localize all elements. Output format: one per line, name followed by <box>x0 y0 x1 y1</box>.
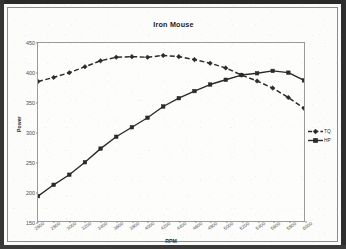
data-point-marker <box>223 66 228 71</box>
x-axis-tick-label: 3000 <box>65 221 76 231</box>
y-axis-tick-mark <box>36 43 38 44</box>
x-axis-tick-label: 5000 <box>223 221 234 231</box>
x-axis-tick-mark <box>306 221 307 223</box>
y-axis-tick-label: 300 <box>26 130 35 136</box>
x-axis-tick-mark <box>290 221 291 223</box>
x-axis-tick-label: 3800 <box>128 221 139 231</box>
data-point-marker <box>38 194 40 198</box>
y-axis-tick-label: 350 <box>26 100 35 106</box>
x-axis-tick-mark <box>258 221 259 223</box>
scanned-chart-page: Iron Mouse Power RPM 4504003503002502001… <box>0 0 346 249</box>
x-axis-tick-label: 2800 <box>50 221 61 231</box>
data-point-marker <box>255 71 259 75</box>
data-point-marker <box>51 75 56 80</box>
x-axis-tick-mark <box>53 221 54 223</box>
legend-label: HP <box>324 138 331 143</box>
y-axis-tick-label: 200 <box>26 190 35 196</box>
data-point-marker <box>145 55 150 60</box>
x-axis-tick-mark <box>38 221 39 223</box>
x-axis-tick-label: 5800 <box>286 221 297 231</box>
data-point-marker <box>52 183 56 187</box>
data-point-marker <box>83 64 88 69</box>
data-point-marker <box>177 54 182 59</box>
data-point-marker <box>255 79 260 84</box>
series-line <box>38 71 304 196</box>
x-axis-tick-label: 4000 <box>144 221 155 231</box>
series-hp <box>38 69 304 198</box>
data-point-marker <box>130 125 134 129</box>
y-axis-tick-mark <box>36 133 38 134</box>
data-point-marker <box>38 79 40 84</box>
y-axis-tick-label: 250 <box>26 160 35 166</box>
y-axis-tick-label: 450 <box>26 40 35 46</box>
series-line <box>38 55 304 108</box>
data-point-marker <box>161 53 166 58</box>
x-axis-tick-mark <box>227 221 228 223</box>
data-point-marker <box>98 59 103 64</box>
data-point-marker <box>271 69 275 73</box>
x-axis-tick-label: 5200 <box>239 221 250 231</box>
data-point-marker <box>302 79 304 83</box>
y-axis-tick-mark <box>36 163 38 164</box>
y-axis-label: Power <box>16 116 22 132</box>
figure-frame: Iron Mouse Power RPM 4504003503002502001… <box>7 7 338 242</box>
x-axis-tick-mark <box>85 221 86 223</box>
x-axis-tick-mark <box>148 221 149 223</box>
scan-border-bottom <box>0 245 346 249</box>
x-axis-tick-mark <box>132 221 133 223</box>
data-point-marker <box>240 73 244 77</box>
data-point-marker <box>270 86 275 91</box>
data-point-marker <box>146 116 150 120</box>
x-axis-tick-label: 4600 <box>191 221 202 231</box>
data-point-marker <box>114 55 119 60</box>
data-point-marker <box>130 54 135 59</box>
x-axis-tick-label: 3400 <box>97 221 108 231</box>
data-point-marker <box>193 89 197 93</box>
x-axis-tick-label: 4400 <box>176 221 187 231</box>
x-axis-tick-label: 5600 <box>270 221 281 231</box>
data-point-marker <box>161 105 165 109</box>
y-axis-tick-mark <box>36 103 38 104</box>
scan-border-right <box>341 0 346 249</box>
x-axis-tick-label: 4800 <box>207 221 218 231</box>
data-point-marker <box>287 71 291 75</box>
x-axis-tick-mark <box>101 221 102 223</box>
x-axis-tick-mark <box>242 221 243 223</box>
y-axis-tick-mark <box>36 73 38 74</box>
x-axis-tick-mark <box>195 221 196 223</box>
x-axis-tick-label: 5400 <box>255 221 266 231</box>
x-axis-tick-mark <box>274 221 275 223</box>
x-axis-tick-mark <box>69 221 70 223</box>
data-point-marker <box>99 147 103 151</box>
x-axis-tick-label: 4200 <box>160 221 171 231</box>
x-axis-tick-mark <box>179 221 180 223</box>
legend-label: TQ <box>324 129 331 134</box>
legend-item-tq[interactable]: TQ <box>308 127 342 136</box>
y-axis-tick-label: 400 <box>26 70 35 76</box>
y-axis-tick-label: 150 <box>26 220 35 226</box>
data-point-marker <box>224 78 228 82</box>
x-axis-tick-label: 6000 <box>302 221 313 231</box>
x-axis-tick-label: 3600 <box>113 221 124 231</box>
x-axis-label: RPM <box>37 238 305 244</box>
chart-legend: TQHP <box>308 127 342 145</box>
legend-item-hp[interactable]: HP <box>308 136 342 145</box>
data-point-marker <box>68 173 72 177</box>
plot-svg <box>38 43 304 221</box>
y-axis-tick-mark <box>36 193 38 194</box>
x-axis-tick-mark <box>211 221 212 223</box>
x-axis-tick-mark <box>116 221 117 223</box>
x-axis-tick-mark <box>164 221 165 223</box>
paper-sheet: Iron Mouse Power RPM 4504003503002502001… <box>4 4 341 245</box>
legend-marker-square-icon <box>308 137 323 144</box>
x-axis-tick-label: 3200 <box>81 221 92 231</box>
data-point-marker <box>177 96 181 100</box>
data-point-marker <box>208 83 212 87</box>
data-point-marker <box>192 57 197 62</box>
legend-marker-diamond-icon <box>308 128 323 135</box>
chart-title: Iron Mouse <box>8 20 339 29</box>
data-point-marker <box>67 70 72 75</box>
data-point-marker <box>83 160 87 164</box>
data-point-marker <box>208 61 213 66</box>
data-point-marker <box>114 135 118 139</box>
